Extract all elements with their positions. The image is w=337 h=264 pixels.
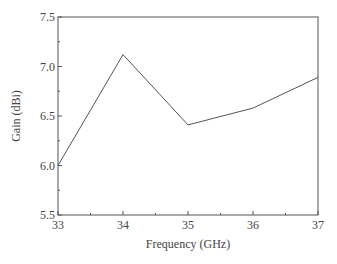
y-tick-label: 7.0 [40,60,55,74]
x-tick-label: 33 [52,218,64,232]
x-axis-label: Frequency (GHz) [146,237,230,251]
y-tick-label: 7.5 [40,10,55,24]
x-tick-label: 37 [312,218,324,232]
y-axis-label: Gain (dBi) [9,90,23,142]
axes-layer: 5.56.06.57.07.53334353637 [40,10,324,232]
y-tick-label: 6.0 [40,159,55,173]
x-tick-label: 36 [247,218,259,232]
x-tick-label: 34 [117,218,129,232]
plot-frame [58,17,318,215]
gain-vs-frequency-chart: 5.56.06.57.07.53334353637 Frequency (GHz… [0,0,337,264]
y-tick-label: 6.5 [40,109,55,123]
gain-line [58,55,318,166]
series-layer [58,55,318,166]
x-tick-label: 35 [182,218,194,232]
